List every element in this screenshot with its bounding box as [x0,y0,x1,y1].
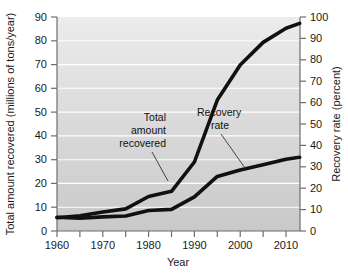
annotation-line: amount [131,124,166,136]
right-axis-tick-labels: 0 10 20 30 40 50 60 70 80 90 100 [310,11,328,237]
right-tick-label: 50 [310,118,322,130]
x-axis-ticks [57,231,286,237]
chart-figure: 0 10 20 30 40 50 60 70 80 90 0 [0,0,348,275]
x-tick-label: 1970 [91,239,115,251]
right-tick-label: 80 [310,53,322,65]
plot-area-background [57,17,300,231]
right-tick-label: 70 [310,75,322,87]
left-tick-label: 10 [35,201,47,213]
left-tick-label: 30 [35,153,47,165]
right-tick-label: 90 [310,32,322,44]
left-axis-ticks [51,17,57,231]
left-tick-label: 90 [35,11,47,23]
left-tick-label: 70 [35,58,47,70]
x-tick-label: 1980 [136,239,160,251]
left-axis-tick-labels: 0 10 20 30 40 50 60 70 80 90 [35,11,47,237]
x-axis-tick-labels: 1960 1970 1980 1990 2000 2010 [45,239,298,251]
x-axis-title: Year [167,256,190,268]
x-tick-label: 1960 [45,239,69,251]
y2-axis-title: Recovery rate (percent) [330,66,342,182]
annotation-line: rate [211,119,229,131]
annotation-line: Recovery [197,106,242,118]
right-tick-label: 30 [310,160,322,172]
right-tick-label: 20 [310,182,322,194]
left-tick-label: 20 [35,177,47,189]
left-tick-label: 60 [35,82,47,94]
right-tick-label: 40 [310,139,322,151]
x-tick-label: 2000 [228,239,252,251]
left-tick-label: 40 [35,129,47,141]
annotation-line: Total [144,111,166,123]
left-tick-label: 0 [41,225,47,237]
right-tick-label: 60 [310,96,322,108]
right-axis-ticks [300,17,306,231]
right-tick-label: 100 [310,11,328,23]
left-tick-label: 80 [35,34,47,46]
right-tick-label: 0 [310,225,316,237]
right-tick-label: 10 [310,203,322,215]
x-tick-label: 1990 [182,239,206,251]
chart-svg: 0 10 20 30 40 50 60 70 80 90 0 [0,0,348,275]
y-axis-title: Total amount recovered (millions of tons… [4,13,16,236]
annotation-line: recovered [119,137,166,149]
x-tick-label: 2010 [274,239,298,251]
left-tick-label: 50 [35,106,47,118]
